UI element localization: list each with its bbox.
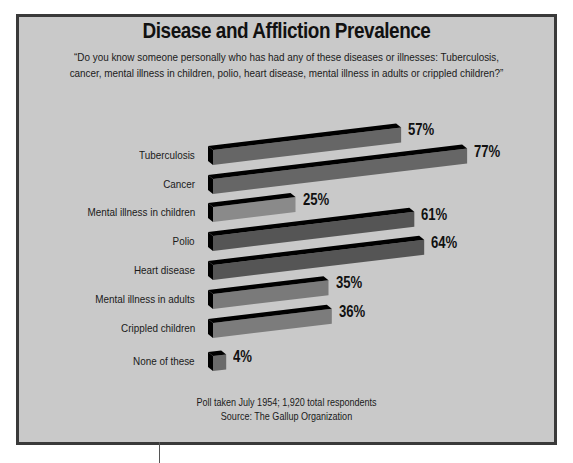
source-info: Source: The Gallup Organization <box>40 409 533 423</box>
category-label: Polio <box>173 235 195 247</box>
value-label: 35% <box>336 274 362 292</box>
value-label: 57% <box>408 121 434 139</box>
category-label: Tuberculosis <box>139 149 195 161</box>
value-label: 61% <box>421 206 447 224</box>
category-label: Heart disease <box>134 264 195 276</box>
bar-chart: Tuberculosis57%Cancer77%Mental illness i… <box>0 0 573 463</box>
category-label: Crippled children <box>121 322 195 334</box>
category-label: None of these <box>133 355 195 367</box>
value-label: 25% <box>303 191 329 209</box>
bar-front <box>213 354 226 371</box>
poll-info: Poll taken July 1954; 1,920 total respon… <box>40 395 533 409</box>
chart-footer: Poll taken July 1954; 1,920 total respon… <box>40 395 533 423</box>
divider-line <box>159 442 160 463</box>
value-label: 64% <box>431 234 457 252</box>
value-label: 4% <box>233 348 252 366</box>
category-label: Cancer <box>163 178 195 190</box>
value-label: 77% <box>474 143 500 161</box>
category-label: Mental illness in children <box>87 206 195 218</box>
value-label: 36% <box>339 303 365 321</box>
category-label: Mental illness in adults <box>95 293 195 305</box>
bars-svg <box>0 0 573 463</box>
